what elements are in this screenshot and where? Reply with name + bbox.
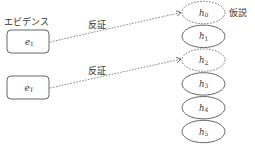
diagram-canvas: エビデンス e1 eT 反証 反証 h0 仮説 h1 h2 h3 h4 — [0, 0, 255, 168]
hypothesis-node-h1: h1 — [182, 25, 225, 47]
edge-label-refutation-1: 反証 — [88, 19, 106, 30]
hypothesis-label: 仮説 — [229, 7, 247, 18]
edge-eT-to-h2: 反証 — [50, 59, 181, 88]
hypothesis-node-h5: h5 — [182, 120, 225, 142]
evidence-node-eT: eT — [7, 76, 49, 99]
hypothesis-node-h0: h0 — [182, 1, 225, 23]
edge-label-refutation-2: 反証 — [88, 65, 106, 76]
evidence-node-e1: e1 — [7, 30, 49, 53]
hypothesis-node-h2: h2 — [182, 49, 225, 71]
hypothesis-node-h4: h4 — [182, 97, 225, 119]
evidence-label: エビデンス — [4, 16, 49, 27]
edge-e1-to-h0: 反証 — [50, 13, 181, 43]
hypothesis-node-h3: h3 — [182, 73, 225, 95]
